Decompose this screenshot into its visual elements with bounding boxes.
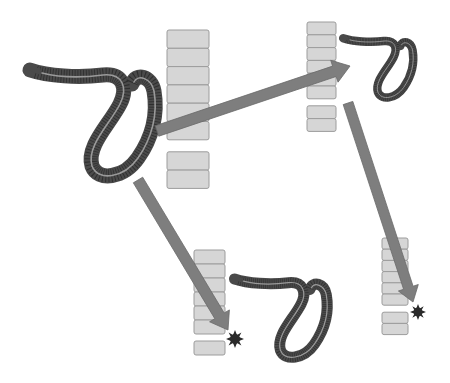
segment-box <box>307 35 336 48</box>
worm-medium-bottom <box>230 277 327 357</box>
segment-box <box>167 170 209 188</box>
worm-large-left <box>24 68 155 176</box>
segment-box <box>167 152 209 170</box>
segment-box <box>194 341 225 355</box>
cut-star-bottom-right-icon <box>410 304 426 320</box>
stack-top-left <box>167 30 209 188</box>
segment-box <box>167 85 209 103</box>
segment-box <box>194 250 225 264</box>
segment-box <box>307 48 336 61</box>
segment-box <box>382 312 408 323</box>
segment-box <box>307 119 336 132</box>
segment-box <box>307 22 336 35</box>
segment-box <box>307 86 336 99</box>
worm-small-top-right <box>340 37 413 97</box>
segment-box <box>307 106 336 119</box>
cut-star-bottom-left-icon <box>226 330 244 348</box>
diagram-canvas <box>0 0 450 383</box>
arrow-to-bottom-right <box>343 101 418 302</box>
segment-box <box>167 48 209 66</box>
segment-box <box>167 67 209 85</box>
segment-box <box>167 30 209 48</box>
segment-box <box>382 323 408 334</box>
